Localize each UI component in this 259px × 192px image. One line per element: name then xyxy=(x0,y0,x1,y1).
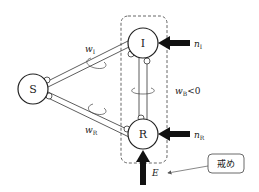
arrow-n-r-icon xyxy=(158,127,190,141)
label-e: E xyxy=(151,168,159,178)
node-i: I xyxy=(128,28,158,58)
callout-leader-line xyxy=(168,166,208,173)
arrow-e-icon xyxy=(136,150,150,185)
arrow-n-i-icon xyxy=(158,36,190,50)
node-r: R xyxy=(128,119,158,149)
node-i-label: I xyxy=(141,37,145,50)
node-s-label: S xyxy=(29,83,37,96)
rotation-w-b-icon xyxy=(132,88,155,94)
link-i-r xyxy=(139,57,147,120)
label-w-i: wI xyxy=(85,44,96,55)
rotation-w-r-icon xyxy=(88,104,106,115)
label-w-r: wR xyxy=(85,125,98,136)
diagram-canvas: S I R wI wR wB<0 nI nR E 戒め xyxy=(0,0,259,192)
label-w-b: wB<0 xyxy=(175,86,201,97)
node-r-label: R xyxy=(139,128,148,141)
node-s: S xyxy=(18,74,48,104)
callout-label: 戒め xyxy=(217,158,235,169)
label-n-r: nR xyxy=(194,130,205,141)
label-n-i: nI xyxy=(194,39,203,50)
